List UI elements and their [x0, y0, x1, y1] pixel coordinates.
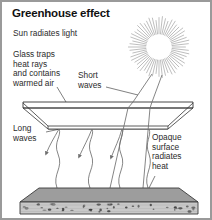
sun-ray [137, 25, 150, 38]
leader-glass [57, 87, 66, 102]
ground-speckle [138, 205, 140, 208]
glass-back-edge [48, 126, 168, 129]
label-long-waves: Long waves [13, 124, 37, 143]
ground-speckle [48, 209, 52, 211]
ground-speckle [153, 209, 155, 210]
page-title: Greenhouse effect [12, 9, 110, 19]
leader-opaque [149, 176, 155, 188]
sun-ray [132, 41, 146, 44]
label-opaque-surface: Opaque surface radiates heat [152, 133, 182, 171]
ground-speckle [117, 203, 119, 205]
ground-speckle [50, 203, 53, 204]
sun-ray [130, 48, 147, 50]
ground-speckle [96, 204, 101, 206]
sun-ray [156, 20, 158, 34]
sun-icon [128, 16, 189, 78]
glass-panel [23, 102, 193, 129]
sun-ray [162, 59, 166, 76]
ground-speckle [42, 210, 46, 212]
ground-speckle [192, 208, 194, 210]
sun-core [147, 35, 171, 59]
ground-slab [20, 188, 198, 214]
long-wave-ray-2 [88, 129, 92, 188]
glass-top-face [23, 102, 193, 108]
label-glass-traps-heat: Glass traps heat rays and contains warme… [13, 50, 60, 88]
sun-ray [137, 56, 150, 69]
greenhouse-effect-figure: Greenhouse effect Sun radiates light Gla… [0, 0, 212, 220]
sun-ray [171, 40, 189, 44]
sun-ray [130, 44, 147, 46]
reflected-rays [46, 129, 122, 158]
short-wave-ray-1 [110, 74, 152, 188]
long-wave-rays [56, 129, 151, 188]
sun-ray [160, 59, 162, 77]
sun-ray [171, 48, 188, 50]
ground-speckle [106, 208, 108, 209]
ground-speckle [70, 210, 74, 211]
label-short-waves: Short waves [78, 71, 102, 90]
ground-speckle [186, 206, 189, 208]
ground-speckle [110, 204, 113, 205]
ground-speckle [132, 206, 135, 207]
sun-ray [152, 59, 156, 76]
ground-speckle [65, 206, 68, 208]
sun-ray [162, 18, 166, 34]
ground-top-face [20, 188, 198, 202]
ground-speckle [62, 209, 64, 212]
label-sun-radiates-light: Sun radiates light [13, 29, 77, 39]
sun-ray [171, 44, 188, 46]
ground-speckle [174, 209, 176, 211]
long-wave-ray-1 [56, 129, 60, 188]
ground-speckle [99, 208, 101, 211]
sun-ray [160, 16, 162, 34]
leader-short-waves [106, 87, 138, 95]
sun-ray [156, 59, 158, 73]
sun-ray [152, 18, 156, 35]
sun-ray [132, 50, 146, 53]
sun-ray [171, 50, 189, 54]
